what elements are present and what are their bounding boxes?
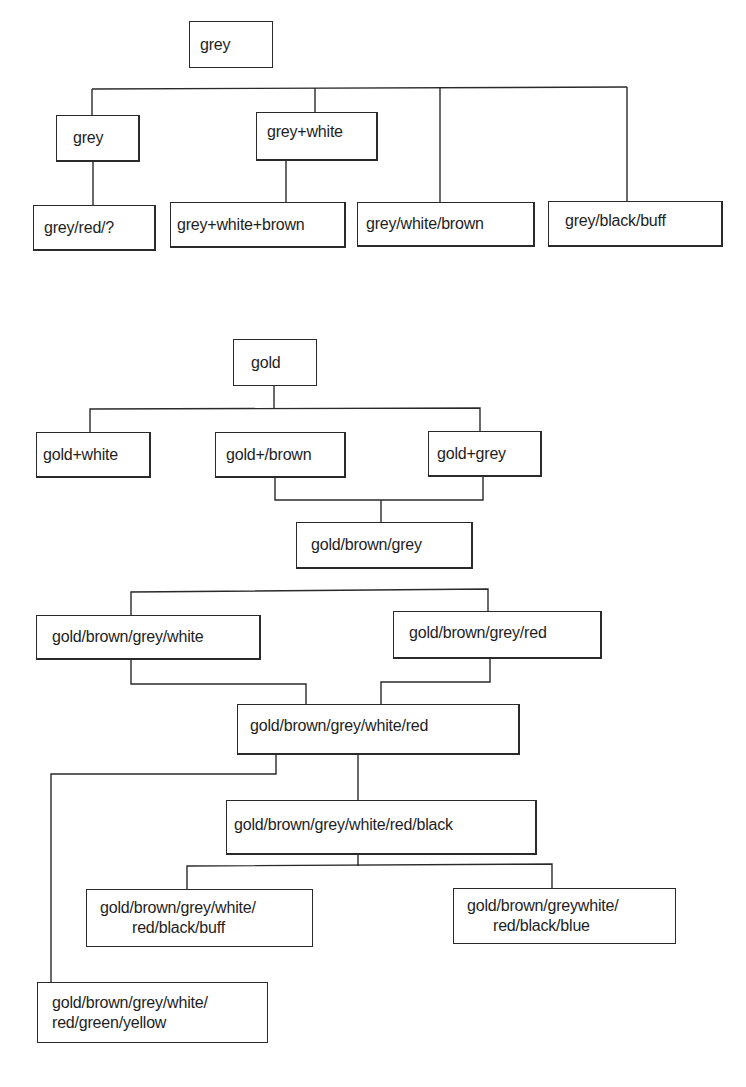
- node-label-line-2: red/green/yellow: [52, 1013, 267, 1033]
- node-gold-brown-grey-red: gold/brown/grey/red: [393, 611, 602, 659]
- connector-white-to-wr: [131, 660, 306, 704]
- node-label: gold: [251, 353, 316, 373]
- node-label: grey/red/?: [44, 218, 154, 238]
- node-grey-white-brown-slash: grey/white/brown: [357, 202, 535, 247]
- node-grey: grey: [56, 115, 140, 162]
- node-label: gold/brown/grey/white/red: [250, 716, 518, 736]
- node-label: gold/brown/grey/red: [409, 623, 600, 643]
- node-label: grey+white+brown: [177, 215, 344, 235]
- node-label: grey: [67, 128, 138, 148]
- node-grey-black-buff: grey/black/buff: [548, 201, 723, 247]
- connector-grey-branch-bar: [92, 87, 627, 89]
- node-gold-brown-grey-white: gold/brown/grey/white: [36, 615, 261, 660]
- node-label: gold/brown/grey/white: [52, 627, 259, 647]
- node-label-line-2: red/black/blue: [467, 916, 675, 936]
- connector-wr-to-yellow: [51, 755, 276, 982]
- node-gold-root: gold: [233, 339, 317, 386]
- node-label-line-2: red/black/buff: [100, 918, 312, 938]
- node-label: grey/white/brown: [366, 214, 533, 234]
- node-label: gold+/brown: [226, 445, 344, 465]
- node-gold-brown-grey-white-red-black: gold/brown/grey/white/red/black: [226, 800, 537, 855]
- node-label: grey+white: [267, 122, 376, 142]
- node-gold-white: gold+white: [36, 432, 151, 478]
- node-label: gold/brown/grey/white/red/black: [234, 815, 535, 835]
- node-red-black-buff: gold/brown/grey/white/ red/black/buff: [86, 889, 313, 947]
- node-label: grey: [200, 35, 272, 55]
- node-grey-root: grey: [189, 21, 273, 68]
- node-red-black-blue: gold/brown/greywhite/ red/black/blue: [453, 888, 676, 944]
- connector-merge-brown-grey: [275, 477, 483, 500]
- node-grey-red-unknown: grey/red/?: [33, 205, 156, 251]
- node-label: gold+grey: [437, 444, 540, 464]
- node-grey-white-brown-plus: grey+white+brown: [170, 202, 346, 248]
- connector-black-branch-bar: [187, 864, 552, 889]
- node-gold-brown-grey-white-red: gold/brown/grey/white/red: [237, 704, 520, 755]
- node-label-line-1: gold/brown/grey/white/: [52, 993, 267, 1013]
- node-label: gold/brown/grey: [311, 535, 471, 555]
- node-label-line-1: gold/brown/greywhite/: [467, 896, 675, 916]
- node-label-line-1: gold/brown/grey/white/: [100, 898, 312, 918]
- node-label: grey/black/buff: [565, 211, 721, 231]
- node-gold-brown-grey: gold/brown/grey: [296, 522, 473, 569]
- connector-gold-branch-bar: [90, 408, 480, 432]
- connector-red-to-wr: [381, 659, 490, 704]
- node-gold-grey: gold+grey: [428, 431, 542, 477]
- node-gold-brown: gold+/brown: [215, 432, 346, 478]
- node-label: gold+white: [43, 445, 149, 465]
- node-grey-white: grey+white: [256, 112, 378, 161]
- node-red-green-yellow: gold/brown/grey/white/ red/green/yellow: [37, 982, 268, 1043]
